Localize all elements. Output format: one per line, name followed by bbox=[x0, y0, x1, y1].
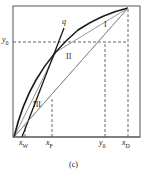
figure-container: y0 xW xF y0 xD q I II III (c) bbox=[0, 0, 147, 178]
y-axis-tick-label-y0: y0 bbox=[2, 36, 9, 46]
plot-area bbox=[0, 0, 147, 178]
region-label-i: I bbox=[104, 21, 107, 29]
plot-frame bbox=[13, 6, 140, 137]
region-label-ii: II bbox=[66, 53, 71, 61]
x-axis-tick-label-xd: xD bbox=[122, 139, 130, 149]
figure-caption: (c) bbox=[0, 161, 147, 169]
x-axis-tick-label-y0: y0 bbox=[99, 139, 106, 149]
x-axis-tick-label-xw: xW bbox=[19, 139, 28, 149]
x-axis-tick-label-xf: xF bbox=[46, 139, 53, 149]
q-line-label: q bbox=[62, 18, 66, 26]
region-label-iii: III bbox=[33, 101, 41, 109]
